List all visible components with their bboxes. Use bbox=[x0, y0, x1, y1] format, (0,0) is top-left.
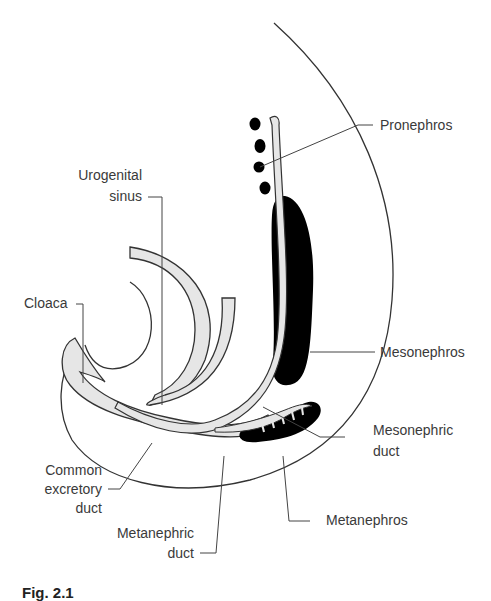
leader-metanephric-duct bbox=[200, 456, 224, 553]
label-common-excretory-duct-line2: excretory bbox=[20, 481, 102, 498]
label-cloaca: Cloaca bbox=[24, 295, 68, 312]
label-common-excretory-duct-line1: Common bbox=[20, 462, 102, 479]
pronephros-dot-3 bbox=[254, 162, 265, 173]
label-mesonephros: Mesonephros bbox=[380, 344, 465, 361]
pronephros-dot-4 bbox=[260, 182, 271, 195]
cloaca-inner-curve bbox=[85, 282, 151, 369]
label-common-excretory-duct-line3: duct bbox=[20, 500, 102, 517]
leader-common-excretory-duct bbox=[108, 443, 152, 489]
label-mesonephric-duct-line1: Mesonephric bbox=[373, 422, 453, 439]
label-metanephric-duct-line1: Metanephric bbox=[100, 525, 194, 542]
label-urogenital-sinus-line1: Urogenital bbox=[60, 167, 142, 184]
label-urogenital-sinus-line2: sinus bbox=[60, 188, 142, 205]
hindgut-duct bbox=[147, 298, 235, 405]
leader-urogenital-sinus bbox=[148, 197, 162, 405]
label-pronephros: Pronephros bbox=[380, 117, 452, 134]
pronephros-dot-1 bbox=[250, 118, 261, 131]
label-mesonephric-duct-line2: duct bbox=[373, 443, 399, 460]
pronephros-dot-2 bbox=[255, 139, 266, 153]
figure-caption: Fig. 2.1 bbox=[22, 584, 74, 601]
label-metanephros: Metanephros bbox=[326, 512, 408, 529]
label-metanephric-duct-line2: duct bbox=[100, 545, 194, 562]
